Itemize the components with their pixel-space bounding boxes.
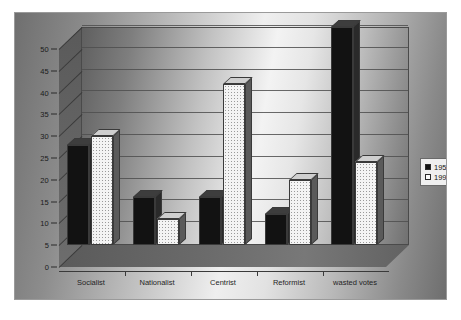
x-axis-tick-mark (257, 271, 258, 276)
y-axis: 05101520253035404550 (15, 13, 59, 265)
x-axis-label-Nationalist: Nationalist (139, 278, 174, 287)
bar-front-face (67, 145, 89, 245)
bar-1955-Nationalist (133, 197, 155, 245)
legend-label: 1999 (434, 173, 447, 182)
bar-front-face (91, 136, 113, 245)
y-axis-tick-label: 5 (45, 241, 49, 250)
x-axis-label-Centrist: Centrist (210, 278, 236, 287)
bar-chart: 05101520253035404550 SocialistNationalis… (14, 12, 447, 300)
y-axis-tick-label: 25 (40, 154, 49, 163)
y-axis-tick-label: 45 (40, 66, 49, 75)
x-axis-tick-mark (125, 271, 126, 276)
bar-1999-Nationalist (157, 219, 179, 245)
bar-front-face (355, 162, 377, 245)
bar-group (331, 27, 379, 245)
legend-swatch-icon (425, 164, 431, 170)
y-axis-tick-mark (51, 223, 57, 224)
bar-1955-Socialist (67, 145, 89, 245)
legend-entry-1999: 1999 (425, 172, 447, 182)
legend-entry-1955: 1955 (425, 162, 447, 172)
y-axis-tick-label: 50 (40, 45, 49, 54)
bar-1999-Reformist (289, 180, 311, 245)
y-axis-tick-label: 30 (40, 132, 49, 141)
bar-side-face (179, 213, 186, 245)
bar-1999-Centrist (223, 84, 245, 245)
y-axis-tick-mark (51, 92, 57, 93)
chart-legend: 1955 1999 (420, 158, 447, 186)
bar-front-face (265, 214, 287, 245)
bar-group (265, 27, 313, 245)
x-axis-label-Socialist: Socialist (77, 278, 105, 287)
bar-front-face (223, 84, 245, 245)
y-axis-tick-mark (51, 245, 57, 246)
bar-group (199, 27, 247, 245)
bar-side-face (377, 156, 384, 245)
bar-front-face (331, 27, 353, 245)
y-axis-tick-label: 40 (40, 88, 49, 97)
bar-front-face (289, 180, 311, 245)
bar-1955-Centrist (199, 197, 221, 245)
y-axis-tick-mark (51, 49, 57, 50)
y-axis-tick-mark (51, 267, 57, 268)
y-axis-tick-mark (51, 201, 57, 202)
bar-side-face (113, 130, 120, 245)
bar-front-face (157, 219, 179, 245)
bar-series-container (59, 27, 409, 267)
y-axis-tick-mark (51, 136, 57, 137)
x-axis-line (59, 271, 389, 272)
bar-1955-wasted-votes (331, 27, 353, 245)
bar-group (67, 27, 115, 245)
x-axis-label-wasted-votes: wasted votes (333, 278, 377, 287)
y-axis-tick-mark (51, 179, 57, 180)
y-axis-tick-label: 35 (40, 110, 49, 119)
y-axis-tick-label: 0 (45, 263, 49, 272)
bar-side-face (311, 173, 318, 245)
x-axis-tick-mark (191, 271, 192, 276)
bar-1999-Socialist (91, 136, 113, 245)
legend-label: 1955 (434, 163, 447, 172)
bar-front-face (199, 197, 221, 245)
y-axis-tick-label: 15 (40, 197, 49, 206)
y-axis-tick-label: 10 (40, 219, 49, 228)
x-axis: SocialistNationalistCentristReformistwas… (59, 271, 419, 297)
legend-swatch-icon (425, 174, 431, 180)
x-axis-label-Reformist: Reformist (273, 278, 305, 287)
bar-side-face (245, 77, 252, 245)
bar-front-face (133, 197, 155, 245)
y-axis-tick-mark (51, 158, 57, 159)
y-axis-tick-mark (51, 70, 57, 71)
bar-1955-Reformist (265, 214, 287, 245)
bar-group (133, 27, 181, 245)
y-axis-tick-mark (51, 114, 57, 115)
x-axis-tick-mark (323, 271, 324, 276)
bar-1999-wasted-votes (355, 162, 377, 245)
y-axis-tick-label: 20 (40, 175, 49, 184)
